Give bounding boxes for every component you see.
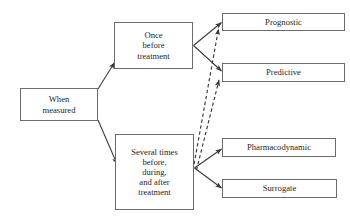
node-when-measured-label: When measured: [41, 94, 78, 114]
node-pharmacodynamic-label: Pharmacodynamic: [245, 142, 313, 152]
node-pharmacodynamic: Pharmacodynamic: [222, 138, 336, 157]
node-predictive-label: Predictive: [264, 67, 303, 77]
node-prognostic-label: Prognostic: [263, 17, 304, 27]
node-predictive: Predictive: [222, 63, 345, 82]
node-several-times-before-during-after-treatment: Several times before, during, and after …: [115, 134, 194, 210]
node-prognostic: Prognostic: [222, 13, 345, 31]
node-when-measured: When measured: [20, 88, 98, 121]
node-once-before-treatment: Once before treatment: [114, 22, 193, 69]
node-surrogate-label: Surrogate: [261, 183, 298, 193]
edge-several-times-to-pharmacodynamic: [195, 149, 222, 168]
edge-several-times-to-surrogate: [195, 168, 222, 188]
edge-several-times-to-predictive-dashed: [197, 80, 220, 170]
node-surrogate: Surrogate: [222, 179, 337, 198]
edge-when-measured-to-once-before: [98, 63, 115, 90]
edge-once-before-to-predictive: [194, 46, 222, 72]
biomarker-classification-diagram: When measured Once before treatment Seve…: [0, 0, 350, 222]
node-several-times-label: Several times before, during, and after …: [129, 147, 180, 198]
node-once-before-treatment-label: Once before treatment: [135, 30, 171, 60]
